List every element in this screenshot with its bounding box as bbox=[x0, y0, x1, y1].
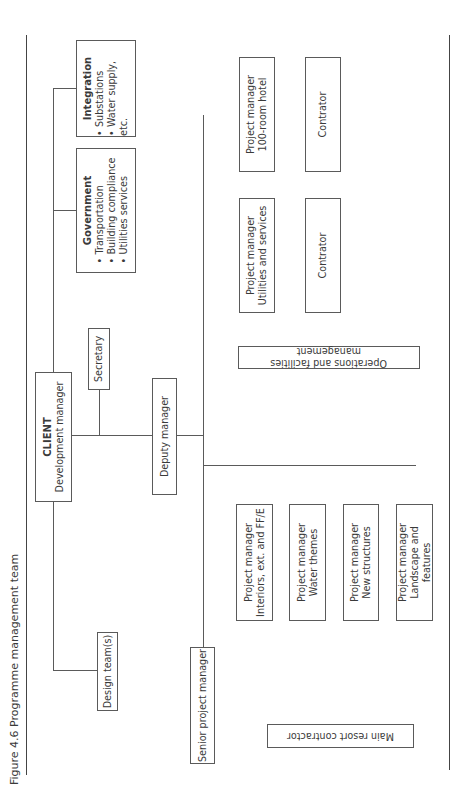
integration-list: Substations Water supply, etc. bbox=[94, 41, 130, 136]
integration-item: Water supply, etc. bbox=[106, 41, 130, 136]
contractor-hotel-box: Contrator bbox=[305, 57, 341, 172]
pm-utilities-line2: Utilities and services bbox=[257, 206, 269, 306]
deputy-manager-box: Deputy manager bbox=[152, 378, 177, 495]
integration-box: Integration Substations Water supply, et… bbox=[76, 40, 136, 137]
pm-line1: Project manager bbox=[397, 523, 409, 602]
government-box: Government Transportation Building compl… bbox=[76, 148, 136, 273]
integration-item: Substations bbox=[94, 41, 106, 136]
secretary-box: Secretary bbox=[88, 328, 110, 390]
design-teams-label: Design team(s) bbox=[102, 635, 114, 709]
pm-hotel-line2: 100-room hotel bbox=[257, 78, 269, 152]
government-item: Building compliance bbox=[106, 158, 118, 264]
org-chart-canvas: Figure 4.6 Programme management team CLI… bbox=[0, 0, 473, 804]
secretary-label: Secretary bbox=[93, 336, 105, 382]
pm-line2: Landscape and features bbox=[409, 505, 433, 620]
pm-line2: Interiors, ext. and FF/E bbox=[255, 508, 267, 617]
connector-to-secretary bbox=[99, 390, 100, 436]
contractor-utilities-box: Contrator bbox=[305, 198, 341, 313]
government-heading: Government bbox=[82, 176, 94, 246]
client-box: CLIENT Development manager bbox=[35, 372, 72, 502]
pm-line1: Project manager bbox=[243, 523, 255, 602]
operations-facilities-label: Operations and facilities management bbox=[239, 346, 419, 370]
top-rule bbox=[26, 35, 27, 775]
pm-line2: New structures bbox=[361, 526, 373, 599]
integration-heading: Integration bbox=[82, 57, 94, 120]
senior-pm-label: Senior project manager bbox=[197, 649, 209, 762]
pm-hotel-box: Project manager 100-room hotel bbox=[239, 57, 275, 172]
main-resort-contractor-box: Main resort contractor bbox=[267, 724, 414, 748]
connector-client-down bbox=[72, 435, 152, 436]
connector-senior-to-hotel-spine bbox=[203, 115, 204, 707]
design-teams-box: Design team(s) bbox=[97, 632, 118, 711]
connector-client-to-design bbox=[53, 502, 54, 671]
connector-to-integration bbox=[53, 88, 76, 89]
contractor-hotel-label: Contrator bbox=[317, 92, 329, 138]
government-list: Transportation Building compliance Utili… bbox=[94, 158, 130, 264]
connector-deputy-down bbox=[177, 435, 203, 436]
pm-line1: Project manager bbox=[349, 523, 361, 602]
deputy-pm-structures: Project manager New structures bbox=[343, 504, 379, 621]
pm-line1: Project manager bbox=[296, 523, 308, 602]
connector-to-design-team bbox=[53, 670, 97, 671]
pm-utilities-box: Project manager Utilities and services bbox=[239, 198, 275, 313]
deputy-pm-bus bbox=[203, 465, 416, 466]
pm-line2: Water themes bbox=[308, 529, 320, 596]
bottom-rule bbox=[449, 35, 450, 770]
operations-facilities-box: Operations and facilities management bbox=[238, 346, 420, 369]
pm-hotel-line1: Project manager bbox=[245, 75, 257, 154]
deputy-manager-label: Deputy manager bbox=[159, 396, 171, 477]
government-item: Transportation bbox=[94, 158, 106, 264]
client-label: Development manager bbox=[54, 382, 66, 493]
deputy-pm-landscape: Project manager Landscape and features bbox=[396, 504, 433, 621]
senior-project-manager-box: Senior project manager bbox=[190, 647, 215, 764]
client-heading: CLIENT bbox=[42, 417, 54, 456]
government-item: Utilities services bbox=[118, 158, 130, 264]
main-resort-contractor-label: Main resort contractor bbox=[287, 730, 394, 742]
deputy-pm-water: Project manager Water themes bbox=[289, 504, 326, 621]
pm-utilities-line1: Project manager bbox=[245, 216, 257, 295]
contractor-utilities-label: Contrator bbox=[317, 233, 329, 279]
deputy-pm-interiors: Project manager Interiors, ext. and FF/E bbox=[236, 504, 273, 621]
connector-to-government bbox=[53, 210, 76, 211]
connector-client-to-externals bbox=[53, 88, 54, 372]
figure-title: Figure 4.6 Programme management team bbox=[8, 554, 21, 785]
